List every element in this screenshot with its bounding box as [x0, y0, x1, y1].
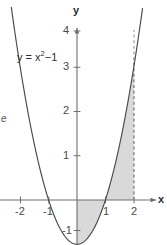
- x-axis-label: x: [158, 194, 164, 205]
- x-tick-label-2: 2: [131, 206, 137, 217]
- curve-equation-prefix: y = x: [17, 51, 41, 63]
- y-tick-label-neg1: -1: [62, 225, 72, 236]
- x-axis-arrowhead: [151, 198, 157, 203]
- graph-figure: y x 4 3 2 1 -1 -2 -1 1 2 y = x2−1 e: [0, 0, 167, 245]
- y-tick-label-1: 1: [63, 150, 69, 161]
- y-tick-label-3: 3: [63, 61, 69, 72]
- curve-equation-label: y = x2−1: [17, 52, 57, 63]
- x-tick-label-neg2: -2: [15, 206, 25, 217]
- x-tick-label-neg1: -1: [43, 206, 53, 217]
- above-axis-region: [105, 67, 133, 200]
- y-tick-label-4: 4: [63, 25, 69, 36]
- below-axis-region: [77, 200, 105, 244]
- y-axis-label: y: [73, 5, 79, 16]
- x-tick-label-1: 1: [103, 206, 109, 217]
- y-tick-label-2: 2: [63, 105, 69, 116]
- plot-canvas: [0, 0, 167, 245]
- margin-note-text: e: [1, 113, 7, 124]
- curve-equation-suffix: −1: [45, 51, 58, 63]
